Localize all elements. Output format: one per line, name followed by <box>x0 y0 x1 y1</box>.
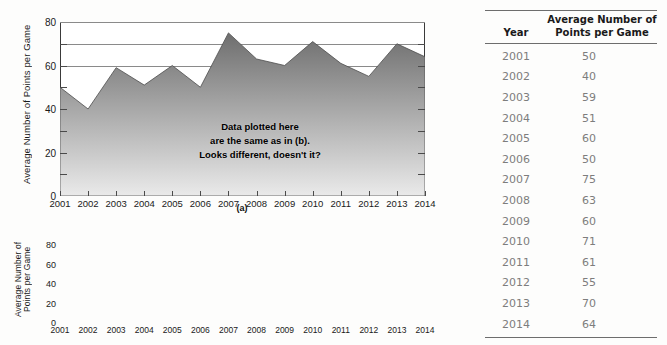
x-tick-label-2002: 2002 <box>78 198 99 209</box>
x-tick-label-2001: 2001 <box>49 198 70 209</box>
table-cell-year: 2013 <box>485 297 547 310</box>
chart-a-area-series <box>60 22 425 196</box>
x-tick-2007 <box>228 191 229 196</box>
table-cell-year: 2009 <box>485 215 547 228</box>
y-tick-label-20: 20 <box>46 299 56 309</box>
table-cell-year: 2010 <box>485 235 547 248</box>
y-tick-left-70 <box>60 44 67 45</box>
data-table: Year Average Number of Points per Game 2… <box>485 10 657 338</box>
y-tick-left-20 <box>60 153 67 154</box>
y-tick-label-60: 60 <box>45 60 56 71</box>
chart-panel-a: Average Number of Points per Game 020406… <box>0 0 440 215</box>
table-cell-average-points: 55 <box>547 276 657 289</box>
x-tick-label-2011: 2011 <box>332 325 350 335</box>
table-cell-year: 2007 <box>485 173 547 186</box>
chart-b-x-tick-labels: 2001200220032004200520062007200820092010… <box>60 325 425 339</box>
y-tick-right-10 <box>418 174 425 175</box>
table-cell-average-points: 70 <box>547 297 657 310</box>
table-row: 200359 <box>485 87 657 108</box>
y-tick-label-80: 80 <box>45 17 56 28</box>
x-tick-label-2004: 2004 <box>135 325 154 335</box>
x-tick-label-2004: 2004 <box>134 198 155 209</box>
table-cell-average-points: 60 <box>547 132 657 145</box>
table-header-year: Year <box>485 27 547 39</box>
x-tick-2010 <box>313 191 314 196</box>
y-tick-right-50 <box>418 87 425 88</box>
x-tick-label-2008: 2008 <box>247 325 266 335</box>
table-cell-average-points: 75 <box>547 173 657 186</box>
y-tick-right-60 <box>418 66 425 67</box>
chart-panel-b: Average Number of Points per Game 020406… <box>0 215 440 345</box>
table-row: 201464 <box>485 314 657 335</box>
x-tick-label-2006: 2006 <box>191 325 210 335</box>
table-row: 201370 <box>485 293 657 314</box>
table-header-row: Year Average Number of Points per Game <box>485 11 657 43</box>
x-tick-2014 <box>425 191 426 196</box>
x-tick-2006 <box>200 191 201 196</box>
x-tick-label-2009: 2009 <box>274 198 295 209</box>
table-cell-year: 2005 <box>485 132 547 145</box>
x-tick-2002 <box>88 191 89 196</box>
chart-a-annotation: Data plotted here are the same as in (b)… <box>150 120 370 161</box>
table-cell-year: 2004 <box>485 112 547 125</box>
table-cell-average-points: 60 <box>547 215 657 228</box>
x-tick-2008 <box>257 191 258 196</box>
table-cell-year: 2001 <box>485 50 547 63</box>
table-row: 201071 <box>485 231 657 252</box>
x-tick-label-2009: 2009 <box>275 325 294 335</box>
x-tick-label-2013: 2013 <box>386 198 407 209</box>
table-row: 200650 <box>485 149 657 170</box>
y-tick-left-50 <box>60 87 67 88</box>
table-cell-year: 2014 <box>485 318 547 331</box>
table-row: 201161 <box>485 252 657 273</box>
table-cell-average-points: 59 <box>547 91 657 104</box>
table-row: 201255 <box>485 273 657 294</box>
y-tick-right-40 <box>418 109 425 110</box>
chart-b-y-axis-label: Average Number of Points per Game <box>14 229 38 329</box>
table-bottom-rule <box>485 337 657 338</box>
x-tick-label-2012: 2012 <box>359 325 378 335</box>
y-tick-label-20: 20 <box>45 147 56 158</box>
y-tick-right-30 <box>418 131 425 132</box>
x-tick-label-2006: 2006 <box>190 198 211 209</box>
y-tick-label-60: 60 <box>46 260 56 270</box>
x-tick-label-2010: 2010 <box>302 198 323 209</box>
table-cell-average-points: 51 <box>547 112 657 125</box>
chart-a-plot-area <box>60 22 425 196</box>
x-tick-2012 <box>369 191 370 196</box>
table-cell-average-points: 63 <box>547 194 657 207</box>
x-tick-label-2005: 2005 <box>162 198 183 209</box>
x-tick-label-2005: 2005 <box>163 325 182 335</box>
y-tick-label-40: 40 <box>45 104 56 115</box>
y-tick-label-80: 80 <box>46 240 56 250</box>
table-cell-year: 2011 <box>485 256 547 269</box>
x-tick-2001 <box>60 191 61 196</box>
table-body: 2001502002402003592004512005602006502007… <box>485 44 657 337</box>
y-tick-right-20 <box>418 153 425 154</box>
table-row: 200960 <box>485 211 657 232</box>
y-tick-left-40 <box>60 109 67 110</box>
x-tick-label-2001: 2001 <box>51 325 70 335</box>
table-header-average-points: Average Number of Points per Game <box>547 14 657 39</box>
figure-two-charts-and-table: Average Number of Points per Game 020406… <box>0 0 667 345</box>
table-row: 200775 <box>485 170 657 191</box>
x-tick-label-2002: 2002 <box>79 325 98 335</box>
chart-a-y-axis-label: Average Number of Points per Game <box>22 12 36 196</box>
table-cell-average-points: 50 <box>547 153 657 166</box>
table-cell-average-points: 61 <box>547 256 657 269</box>
table-row: 200451 <box>485 108 657 129</box>
chart-a-panel-caption: (a) <box>222 203 262 213</box>
x-tick-2004 <box>144 191 145 196</box>
x-tick-2003 <box>116 191 117 196</box>
table-row: 200560 <box>485 128 657 149</box>
x-tick-2013 <box>397 191 398 196</box>
table-cell-year: 2002 <box>485 70 547 83</box>
x-tick-label-2003: 2003 <box>107 325 126 335</box>
table-row: 200150 <box>485 46 657 67</box>
x-tick-label-2012: 2012 <box>358 198 379 209</box>
table-cell-year: 2006 <box>485 153 547 166</box>
y-tick-label-40: 40 <box>46 279 56 289</box>
x-tick-2005 <box>172 191 173 196</box>
x-tick-label-2003: 2003 <box>106 198 127 209</box>
y-tick-left-10 <box>60 174 67 175</box>
